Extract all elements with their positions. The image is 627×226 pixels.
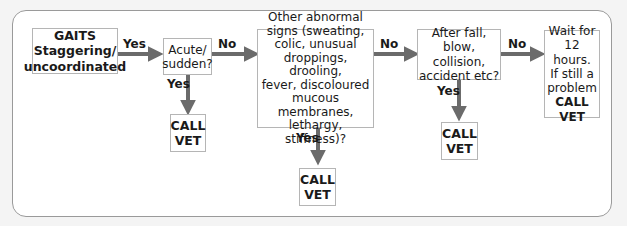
wait-action-line2: VET [559, 110, 585, 124]
q2-line: signs (sweating, [267, 25, 364, 39]
call-vet-box-1: CALL VET [170, 114, 206, 152]
wait-action-line1: CALL [555, 95, 588, 109]
edge-label-no-1: No [218, 37, 236, 51]
edge-label-no-3: No [508, 37, 526, 51]
start-title: GAITS [54, 28, 96, 44]
wait-12-hours-box: Wait for 12 hours. If still a problem CA… [544, 30, 600, 118]
vet3-line1: CALL [442, 126, 477, 142]
q2-line: colic, unusual [274, 38, 356, 52]
acute-question-box: Acute/ sudden? [163, 38, 212, 75]
gaits-start-box: GAITS Staggering/ uncoordinated [32, 28, 118, 74]
after-fall-question-box: After fall, blow, collision, accident et… [417, 29, 501, 80]
edge-label-yes-2: Yes [167, 77, 190, 91]
wait-line: 12 hours. [545, 38, 599, 67]
call-vet-box-2: CALL VET [299, 168, 336, 206]
edge-label-yes-4: Yes [437, 84, 460, 98]
edge-label-no-2: No [380, 37, 398, 51]
call-vet-box-3: CALL VET [441, 122, 478, 160]
q3-line: accident etc? [419, 69, 499, 84]
q2-line: Other abnormal [268, 11, 363, 25]
q3-line: After fall, [432, 26, 487, 41]
edge-label-yes-1: Yes [123, 37, 146, 51]
vet1-line2: VET [175, 133, 202, 149]
q1-line1: Acute/ [168, 43, 206, 57]
wait-line: If still a [550, 67, 594, 81]
wait-line: problem [547, 81, 597, 95]
other-signs-question-box: Other abnormal signs (sweating, colic, u… [257, 29, 374, 128]
start-line1: Staggering/ [34, 43, 117, 59]
vet2-line2: VET [304, 187, 331, 203]
vet2-line1: CALL [300, 172, 335, 188]
edge-label-yes-3: Yes [296, 131, 319, 145]
q1-line2: sudden? [162, 57, 212, 71]
q2-line: mucous membranes, [258, 92, 373, 119]
vet3-line2: VET [446, 141, 473, 157]
q2-line: droppings, drooling, [258, 52, 373, 79]
wait-line: Wait for [549, 24, 596, 38]
q2-line: fever, discoloured [262, 79, 370, 93]
q3-line: blow, collision, [418, 40, 500, 69]
vet1-line1: CALL [171, 118, 206, 134]
start-line2: uncoordinated [24, 59, 127, 75]
